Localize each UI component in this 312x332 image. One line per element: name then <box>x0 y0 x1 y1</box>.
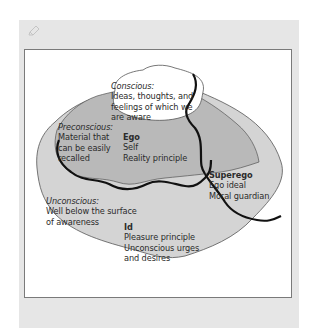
superego-line: Ego ideal <box>209 180 269 190</box>
preconscious-line: recalled <box>58 153 113 163</box>
edit-icon[interactable] <box>27 24 41 38</box>
preconscious-label: Preconscious: Material that can be easil… <box>58 122 113 163</box>
id-title: Id <box>124 222 199 232</box>
id-line: Pleasure principle <box>124 232 199 242</box>
ego-line: Self <box>123 142 187 152</box>
ego-line: Reality principle <box>123 153 187 163</box>
id-line: and desires <box>124 253 199 263</box>
superego-line: Moral guardian <box>209 191 269 201</box>
superego-title: Superego <box>209 170 269 180</box>
superego-label: Superego Ego ideal Moral guardian <box>209 170 269 201</box>
unconscious-line: Well below the surface <box>46 206 137 216</box>
conscious-line: feelings of which we <box>111 102 193 112</box>
ego-label: Ego Self Reality principle <box>123 132 187 163</box>
conscious-title: Conscious: <box>111 81 193 91</box>
preconscious-line: Material that <box>58 132 113 142</box>
id-label: Id Pleasure principle Unconscious urges … <box>124 222 199 263</box>
ego-title: Ego <box>123 132 187 142</box>
conscious-line: are aware <box>111 112 193 122</box>
unconscious-title: Unconscious: <box>46 196 137 206</box>
id-line: Unconscious urges <box>124 243 199 253</box>
conscious-line: Ideas, thoughts, and <box>111 91 193 101</box>
diagram-frame: Conscious: Ideas, thoughts, and feelings… <box>24 49 292 298</box>
figure-card: Conscious: Ideas, thoughts, and feelings… <box>19 20 299 328</box>
preconscious-line: can be easily <box>58 143 113 153</box>
preconscious-title: Preconscious: <box>58 122 113 132</box>
conscious-label: Conscious: Ideas, thoughts, and feelings… <box>111 81 193 122</box>
